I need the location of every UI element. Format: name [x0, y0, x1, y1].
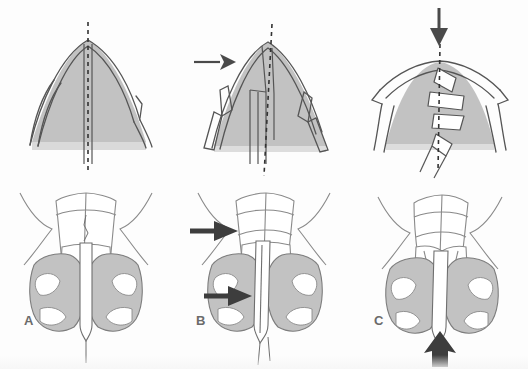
panel-a-top-view — [0, 0, 176, 185]
caudal-force-arrow — [424, 331, 456, 367]
axial-load-arrow — [430, 8, 448, 46]
shortened-septum-columella — [432, 251, 448, 343]
coronal-anatomy-axial-load — [352, 185, 528, 369]
panel-b-top-view — [176, 0, 352, 185]
panel-a-bottom-view: A — [0, 185, 176, 369]
panel-b-bottom-view: B — [176, 185, 352, 369]
panel-label-a: A — [24, 313, 34, 328]
sagittal-schematic-lateral-force — [176, 0, 352, 185]
lateral-force-arrow — [194, 54, 236, 70]
septum-columella — [80, 243, 92, 341]
panel-c-top-view — [352, 0, 528, 185]
panel-label-b: B — [196, 313, 206, 328]
sagittal-schematic-axial-load — [352, 0, 528, 185]
sagittal-schematic-normal — [0, 0, 176, 185]
coronal-anatomy-normal — [0, 185, 176, 369]
upper-lateral-force-arrow — [190, 221, 238, 241]
panel-label-c: C — [374, 313, 384, 328]
cartilage-shading — [32, 40, 146, 150]
deviated-septum-columella — [254, 241, 270, 343]
panel-c-bottom-view: C — [352, 185, 528, 369]
coronal-anatomy-lateral-force — [176, 185, 352, 369]
figure-root: A — [0, 0, 528, 369]
